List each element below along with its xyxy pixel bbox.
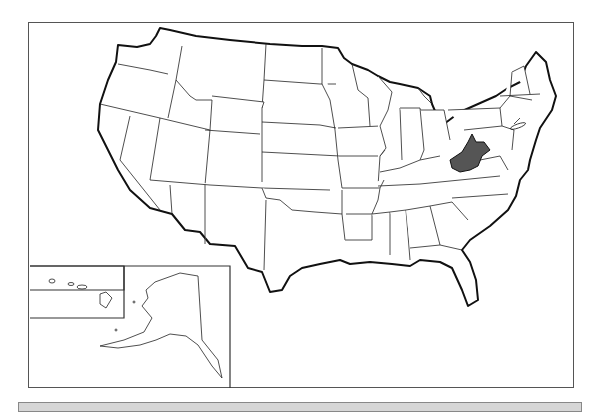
inset-region <box>30 266 230 388</box>
bottom-bar <box>18 402 582 412</box>
hawaii-inset <box>49 279 112 308</box>
alaska-inset <box>100 273 222 378</box>
